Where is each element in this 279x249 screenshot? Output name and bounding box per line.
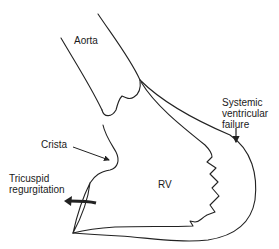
regurgitation-arrowhead (64, 196, 72, 206)
crista-pointer-arrow (73, 147, 109, 160)
crista-wall (90, 125, 118, 183)
aorta-left-wall (61, 38, 102, 110)
label-systemic-line3: failure (222, 119, 249, 130)
aorta-right-wall (98, 14, 140, 80)
label-systemic-line1: Systemic (222, 97, 263, 108)
label-rv: RV (158, 179, 172, 190)
tricuspid-valve (73, 183, 90, 233)
rv-inner-wall (73, 82, 219, 233)
label-tricuspid-line2: regurgitation (9, 184, 65, 195)
label-aorta: Aorta (74, 35, 98, 46)
label-tricuspid-line1: Tricuspid (9, 173, 49, 184)
label-crista: Crista (41, 139, 67, 150)
aortic-valve-cusps (102, 80, 140, 116)
label-systemic-line2: ventricular (222, 108, 268, 119)
regurgitation-arrow (70, 201, 96, 203)
